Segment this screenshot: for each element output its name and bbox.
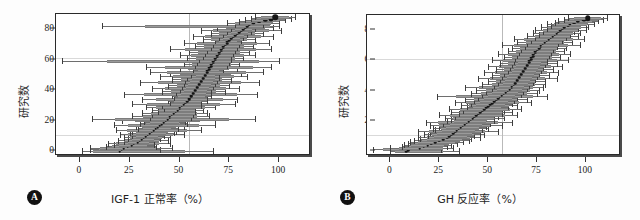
panel-a-x-axis-title: IGF-1 正常率（%） <box>0 190 320 206</box>
x-tick-label: 0 <box>77 165 82 175</box>
y-tick-mark <box>370 29 375 30</box>
x-tick-label: 25 <box>124 165 134 175</box>
panel-a-plot-area <box>56 14 309 154</box>
x-tick-label: 100 <box>271 165 285 175</box>
study-row <box>367 17 619 20</box>
y-tick-mark <box>50 150 55 151</box>
x-tick-label: 50 <box>482 165 492 175</box>
y-tick-mark <box>50 89 55 90</box>
panel-a: 研究数 020406080 IGF-1 正常率（%） A 0255075100 <box>0 0 320 220</box>
x-tick-label: 75 <box>224 165 234 175</box>
x-tick-label: 0 <box>387 165 392 175</box>
panel-b-plot-area <box>367 15 619 154</box>
x-tick-label: 50 <box>174 165 184 175</box>
figure-root: 研究数 020406080 IGF-1 正常率（%） A 0255075100 … <box>0 0 640 220</box>
x-tick-mark <box>438 157 439 162</box>
y-tick-mark <box>370 59 375 60</box>
y-tick-mark <box>50 119 55 120</box>
x-tick-mark <box>585 157 586 162</box>
panel-a-plot-frame <box>55 13 310 155</box>
x-tick-label: 25 <box>434 165 444 175</box>
x-tick-mark <box>487 157 488 162</box>
x-tick-mark <box>79 157 80 162</box>
x-tick-mark <box>129 157 130 162</box>
whisker-end-cap <box>568 15 569 21</box>
panel-b-badge: B <box>340 190 355 205</box>
y-tick-mark <box>50 58 55 59</box>
x-tick-mark <box>536 157 537 162</box>
whisker-end-cap <box>295 14 296 20</box>
panel-b: 研究数 020406080 GH 反应率（%） B 0255075100 <box>320 0 640 220</box>
panel-b-plot-frame <box>366 14 620 155</box>
panel-a-y-tick-labels: 020406080 <box>28 0 54 220</box>
x-tick-mark <box>389 157 390 162</box>
study-row <box>56 16 309 19</box>
whisker-end-cap <box>255 14 256 20</box>
x-tick-label: 100 <box>578 165 592 175</box>
x-tick-label: 75 <box>531 165 541 175</box>
x-tick-mark <box>179 157 180 162</box>
panel-a-badge: A <box>27 190 42 205</box>
y-tick-mark <box>50 28 55 29</box>
x-tick-mark <box>278 157 279 162</box>
y-tick-mark <box>370 89 375 90</box>
x-tick-mark <box>228 157 229 162</box>
y-tick-mark <box>370 120 375 121</box>
whisker-end-cap <box>607 15 608 21</box>
panel-b-x-axis-title: GH 反应率（%） <box>320 190 640 206</box>
y-tick-mark <box>370 150 375 151</box>
